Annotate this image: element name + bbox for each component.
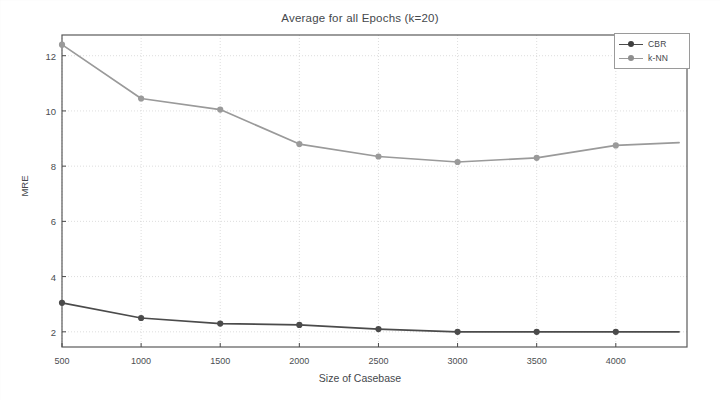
series-line-k-nn (62, 45, 679, 162)
legend-label-cbr: CBR (648, 39, 667, 49)
data-point-cbr (217, 320, 223, 326)
data-point-cbr (534, 329, 540, 335)
data-point-cbr (375, 326, 381, 332)
data-point-k-nn (138, 95, 144, 101)
data-point-cbr (454, 329, 460, 335)
chart-plot-area (0, 0, 720, 400)
data-point-k-nn (454, 159, 460, 165)
data-point-cbr (296, 322, 302, 328)
data-point-k-nn (59, 42, 65, 48)
legend-item-knn[interactable]: k-NN (619, 51, 685, 65)
data-point-k-nn (613, 142, 619, 148)
data-point-k-nn (217, 106, 223, 112)
data-point-cbr (138, 315, 144, 321)
legend-label-knn: k-NN (648, 53, 668, 63)
data-point-k-nn (534, 155, 540, 161)
legend-swatch-cbr (619, 39, 643, 49)
plot-frame (62, 35, 687, 347)
chart-legend: CBR k-NN (614, 33, 690, 69)
data-point-k-nn (375, 153, 381, 159)
data-point-cbr (59, 300, 65, 306)
data-point-cbr (613, 329, 619, 335)
legend-swatch-knn (619, 53, 643, 63)
data-point-k-nn (296, 141, 302, 147)
series-line-cbr (62, 303, 679, 332)
legend-item-cbr[interactable]: CBR (619, 37, 685, 51)
